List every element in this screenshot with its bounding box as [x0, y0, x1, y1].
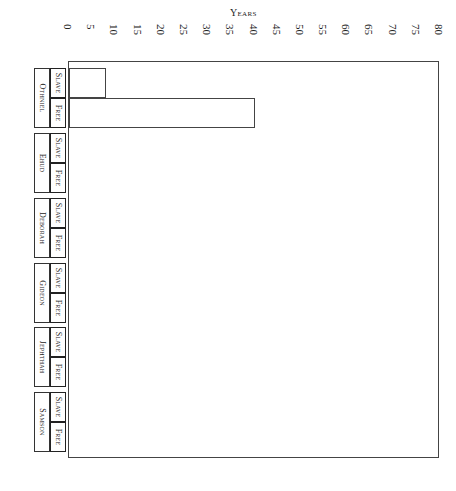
x-tick-text: 70	[387, 24, 399, 35]
x-tick-text: 0	[62, 24, 74, 30]
x-tick-label: 50	[295, 24, 305, 50]
free-label: Free	[54, 300, 63, 317]
x-tick-text: 15	[132, 24, 144, 35]
x-tick-label: 15	[133, 24, 143, 50]
category-name-cell: Deborah	[34, 198, 50, 258]
x-tick-text: 5	[85, 24, 97, 30]
free-cell: Free	[50, 98, 66, 128]
category-name: Ehud	[38, 154, 47, 173]
x-tick-label: 55	[318, 24, 328, 50]
x-tick-text: 35	[224, 24, 236, 35]
x-tick-text: 75	[410, 24, 422, 35]
category-group-jephthah: JephthahSlaveFree	[34, 327, 66, 387]
x-tick-text: 10	[108, 24, 120, 35]
free-label: Free	[54, 105, 63, 122]
slave-cell: Slave	[50, 263, 66, 293]
category-name-cell: Ehud	[34, 133, 50, 193]
category-name: Jephthah	[38, 341, 47, 374]
x-tick-text: 60	[340, 24, 352, 35]
category-name-cell: Samson	[34, 392, 50, 452]
free-label: Free	[54, 429, 63, 446]
bar-othniel-free	[69, 98, 255, 128]
x-tick-label: 30	[202, 24, 212, 50]
x-tick-label: 75	[411, 24, 421, 50]
slave-label: Slave	[54, 73, 63, 94]
plot-area	[68, 61, 439, 458]
category-group-gideon: GideonSlaveFree	[34, 263, 66, 323]
x-tick-label: 35	[225, 24, 235, 50]
x-tick-label: 10	[109, 24, 119, 50]
slave-cell: Slave	[50, 327, 66, 357]
slave-label: Slave	[54, 203, 63, 224]
free-cell: Free	[50, 163, 66, 193]
slave-cell: Slave	[50, 133, 66, 163]
category-name: Samson	[38, 408, 47, 435]
slave-label: Slave	[54, 138, 63, 159]
bar-othniel-slave	[69, 68, 106, 98]
free-cell: Free	[50, 422, 66, 452]
free-cell: Free	[50, 293, 66, 323]
category-name: Deborah	[38, 212, 47, 244]
x-tick-label: 80	[434, 24, 444, 50]
slave-cell: Slave	[50, 392, 66, 422]
x-tick-label: 5	[86, 24, 96, 50]
x-tick-label: 0	[63, 24, 73, 50]
x-tick-text: 20	[155, 24, 167, 35]
free-label: Free	[54, 364, 63, 381]
category-group-deborah: DeborahSlaveFree	[34, 198, 66, 258]
x-tick-text: 45	[271, 24, 283, 35]
x-axis-title: Years	[230, 7, 257, 18]
x-tick-text: 25	[178, 24, 190, 35]
category-name: Gideon	[38, 280, 47, 306]
x-tick-label: 20	[156, 24, 166, 50]
category-name-cell: Jephthah	[34, 327, 50, 387]
x-tick-text: 80	[433, 24, 445, 35]
slave-cell: Slave	[50, 198, 66, 228]
x-tick-label: 45	[272, 24, 282, 50]
x-tick-text: 40	[248, 24, 260, 35]
category-group-othniel: OthnielSlaveFree	[34, 68, 66, 128]
x-tick-text: 65	[363, 24, 375, 35]
x-tick-text: 50	[294, 24, 306, 35]
x-tick-text: 30	[201, 24, 213, 35]
x-tick-label: 40	[249, 24, 259, 50]
free-label: Free	[54, 170, 63, 187]
x-tick-label: 60	[341, 24, 351, 50]
slave-label: Slave	[54, 397, 63, 418]
category-name-cell: Othniel	[34, 68, 50, 128]
free-cell: Free	[50, 228, 66, 258]
slave-label: Slave	[54, 268, 63, 289]
slave-label: Slave	[54, 332, 63, 353]
x-tick-label: 65	[364, 24, 374, 50]
free-label: Free	[54, 235, 63, 252]
category-group-ehud: EhudSlaveFree	[34, 133, 66, 193]
x-tick-text: 55	[317, 24, 329, 35]
category-group-samson: SamsonSlaveFree	[34, 392, 66, 452]
x-tick-label: 70	[388, 24, 398, 50]
slave-cell: Slave	[50, 68, 66, 98]
category-name-cell: Gideon	[34, 263, 50, 323]
category-name: Othniel	[38, 84, 47, 113]
x-tick-label: 25	[179, 24, 189, 50]
free-cell: Free	[50, 357, 66, 387]
